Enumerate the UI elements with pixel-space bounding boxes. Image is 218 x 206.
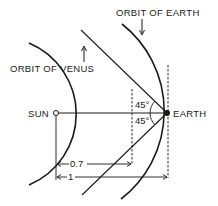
angle-lower-label: 45° <box>135 115 150 126</box>
orbit-earth-label: ORBIT OF EARTH <box>116 7 200 18</box>
earth-label: EARTH <box>173 108 207 119</box>
earth-orbit-arc <box>121 24 164 199</box>
dist-earth-label: 1 <box>68 171 73 182</box>
angle-upper-label: 45° <box>135 99 150 110</box>
sun-marker <box>54 111 59 116</box>
lower-tangent-line <box>82 113 167 195</box>
sun-label: SUN <box>28 108 49 119</box>
dim-1 <box>57 171 167 182</box>
venus-elongation-diagram: ORBIT OF EARTH ORBIT OF VENUS SUN EARTH … <box>0 0 218 206</box>
orbit-venus-label: ORBIT OF VENUS <box>10 63 94 74</box>
dim-0-7 <box>57 158 131 169</box>
earth-marker <box>164 110 170 116</box>
dist-venus-label: 0.7 <box>70 158 83 169</box>
